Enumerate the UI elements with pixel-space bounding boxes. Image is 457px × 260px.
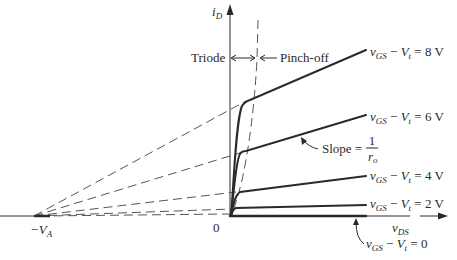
x-axis-arrow-icon	[438, 213, 448, 220]
pinchoff-label: Pinch-off	[280, 50, 330, 65]
y-axis-arrow-icon	[227, 4, 234, 15]
curve-label-vov-6: vGS − Vt = 6 V	[370, 109, 444, 126]
curve-vov-6	[231, 115, 366, 216]
region-arrows	[231, 55, 277, 61]
curve-label-vov-4: vGS − Vt = 4 V	[370, 168, 444, 185]
curve-vov-2	[231, 205, 366, 216]
curve-label-vov-2: vGS − Vt = 2 V	[370, 196, 444, 213]
curve-vov-4	[231, 176, 366, 216]
curve-label-vov-8: vGS − Vt = 8 V	[370, 44, 444, 61]
origin-label: 0	[213, 220, 220, 235]
slope-denominator: ro	[368, 149, 378, 165]
x-axis-label: vDS	[392, 220, 409, 237]
triode-label: Triode	[191, 50, 225, 65]
slope-numerator: 1	[369, 133, 376, 148]
slope-label: Slope =	[322, 141, 362, 156]
zero-curve-pointer-arrow-icon	[353, 218, 359, 225]
early-voltage-extrapolations	[34, 101, 246, 216]
zero-curve-pointer	[356, 222, 364, 244]
mosfet-characteristics-figure: iD vDS 0 −VA Triode Pinch-off vGS − Vt =…	[0, 0, 457, 260]
curve-label-vov-0: vGS − Vt = 0	[366, 236, 427, 253]
va-label: −VA	[30, 222, 53, 239]
slope-pointer-arrow-icon	[301, 137, 307, 145]
y-axis-label: iD	[212, 4, 223, 21]
x-axis	[0, 213, 448, 220]
